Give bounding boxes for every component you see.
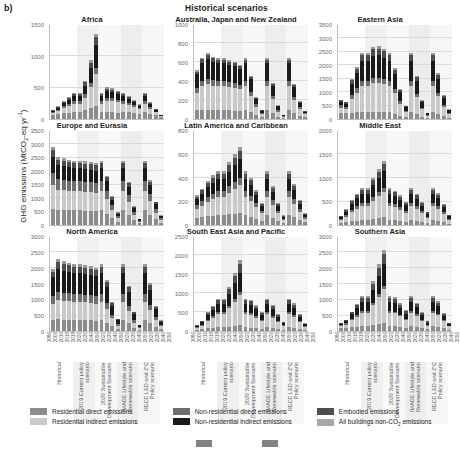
stacked-bar[interactable]	[254, 97, 258, 119]
stacked-bar[interactable]	[393, 191, 397, 225]
stacked-bar[interactable]	[366, 53, 370, 119]
stacked-bar[interactable]	[67, 97, 71, 119]
stacked-bar[interactable]	[398, 195, 402, 225]
legend-item[interactable]: All buildings non-CO2 emissions	[317, 418, 432, 427]
stacked-bar[interactable]	[292, 184, 296, 225]
stacked-bar[interactable]	[244, 299, 248, 331]
stacked-bar[interactable]	[409, 188, 413, 225]
stacked-bar[interactable]	[303, 213, 307, 225]
stacked-bar[interactable]	[442, 204, 446, 225]
stacked-bar[interactable]	[436, 73, 440, 119]
stacked-bar[interactable]	[222, 58, 226, 119]
stacked-bar[interactable]	[72, 161, 76, 225]
stacked-bar[interactable]	[94, 34, 98, 119]
stacked-bar[interactable]	[216, 299, 220, 331]
stacked-bar[interactable]	[132, 312, 136, 331]
stacked-bar[interactable]	[431, 296, 435, 331]
stacked-bar[interactable]	[298, 200, 302, 225]
stacked-bar[interactable]	[206, 53, 210, 119]
stacked-bar[interactable]	[56, 157, 60, 225]
stacked-bar[interactable]	[83, 80, 87, 119]
stacked-bar[interactable]	[282, 115, 286, 119]
stacked-bar[interactable]	[298, 314, 302, 331]
stacked-bar[interactable]	[344, 102, 348, 119]
stacked-bar[interactable]	[447, 109, 451, 119]
stacked-bar[interactable]	[350, 79, 354, 119]
stacked-bar[interactable]	[436, 301, 440, 331]
stacked-bar[interactable]	[276, 203, 280, 225]
legend-item[interactable]: Residential indirect emissions	[30, 418, 138, 425]
stacked-bar[interactable]	[51, 269, 55, 331]
stacked-bar[interactable]	[282, 322, 286, 331]
stacked-bar[interactable]	[442, 95, 446, 119]
stacked-bar[interactable]	[415, 303, 419, 332]
stacked-bar[interactable]	[265, 58, 269, 119]
stacked-bar[interactable]	[447, 323, 451, 331]
stacked-bar[interactable]	[404, 106, 408, 119]
stacked-bar[interactable]	[143, 264, 147, 331]
stacked-bar[interactable]	[388, 53, 392, 119]
stacked-bar[interactable]	[127, 182, 131, 225]
stacked-bar[interactable]	[100, 161, 104, 225]
stacked-bar[interactable]	[211, 306, 215, 331]
stacked-bar[interactable]	[154, 306, 158, 331]
stacked-bar[interactable]	[238, 260, 242, 331]
stacked-bar[interactable]	[298, 101, 302, 119]
stacked-bar[interactable]	[409, 296, 413, 331]
stacked-bar[interactable]	[89, 266, 93, 331]
stacked-bar[interactable]	[206, 181, 210, 225]
stacked-bar[interactable]	[276, 105, 280, 119]
stacked-bar[interactable]	[415, 194, 419, 225]
stacked-bar[interactable]	[116, 318, 120, 331]
stacked-bar[interactable]	[62, 101, 66, 119]
stacked-bar[interactable]	[200, 321, 204, 331]
stacked-bar[interactable]	[121, 161, 125, 225]
stacked-bar[interactable]	[366, 296, 370, 331]
stacked-bar[interactable]	[265, 171, 269, 225]
stacked-bar[interactable]	[377, 46, 381, 119]
stacked-bar[interactable]	[67, 262, 71, 331]
stacked-bar[interactable]	[339, 216, 343, 225]
stacked-bar[interactable]	[83, 161, 87, 225]
stacked-bar[interactable]	[393, 297, 397, 331]
stacked-bar[interactable]	[132, 206, 136, 225]
legend-item[interactable]: Non-residential direct emissions	[173, 408, 292, 415]
stacked-bar[interactable]	[344, 320, 348, 331]
stacked-bar[interactable]	[148, 180, 152, 225]
stacked-bar[interactable]	[393, 68, 397, 119]
legend-item[interactable]: Residential direct emissions	[30, 408, 138, 415]
stacked-bar[interactable]	[227, 162, 231, 225]
stacked-bar[interactable]	[442, 313, 446, 331]
stacked-bar[interactable]	[154, 109, 158, 119]
stacked-bar[interactable]	[350, 312, 354, 331]
stacked-bar[interactable]	[195, 195, 199, 225]
stacked-bar[interactable]	[116, 91, 120, 119]
stacked-bar[interactable]	[195, 70, 199, 119]
stacked-bar[interactable]	[292, 303, 296, 331]
stacked-bar[interactable]	[377, 169, 381, 225]
stacked-bar[interactable]	[110, 88, 114, 119]
stacked-bar[interactable]	[105, 280, 109, 331]
stacked-bar[interactable]	[62, 261, 66, 331]
stacked-bar[interactable]	[100, 93, 104, 120]
legend-item[interactable]: Non-residential indirect emissions	[173, 418, 292, 425]
stacked-bar[interactable]	[404, 202, 408, 225]
stacked-bar[interactable]	[211, 175, 215, 225]
stacked-bar[interactable]	[238, 147, 242, 225]
stacked-bar[interactable]	[143, 161, 147, 225]
stacked-bar[interactable]	[287, 171, 291, 225]
stacked-bar[interactable]	[89, 162, 93, 225]
stacked-bar[interactable]	[138, 219, 142, 225]
stacked-bar[interactable]	[371, 281, 375, 331]
stacked-bar[interactable]	[227, 287, 231, 331]
stacked-bar[interactable]	[388, 296, 392, 331]
stacked-bar[interactable]	[292, 84, 296, 119]
stacked-bar[interactable]	[409, 53, 413, 119]
legend-item[interactable]: Embodied emissions	[317, 408, 432, 415]
stacked-bar[interactable]	[148, 102, 152, 119]
stacked-bar[interactable]	[382, 249, 386, 331]
stacked-bar[interactable]	[222, 171, 226, 225]
stacked-bar[interactable]	[200, 58, 204, 119]
stacked-bar[interactable]	[233, 273, 237, 331]
stacked-bar[interactable]	[249, 76, 253, 119]
